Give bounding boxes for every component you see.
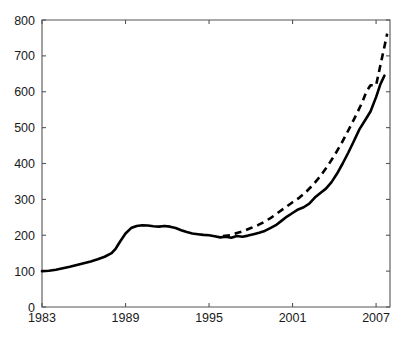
plot-frame xyxy=(42,20,390,307)
x-tick-label: 1989 xyxy=(112,311,140,325)
y-tick-label: 500 xyxy=(14,121,35,135)
x-tick-label: 1995 xyxy=(195,311,223,325)
y-tick-label: 200 xyxy=(14,229,35,243)
x-tick-label: 2007 xyxy=(362,311,390,325)
x-tick-label: 2001 xyxy=(279,311,307,325)
y-tick-label: 700 xyxy=(14,49,35,63)
line-chart: 19831989199520012007 0100200300400500600… xyxy=(0,0,415,338)
y-axis-tick-labels: 0100200300400500600700800 xyxy=(14,14,35,315)
series-line-solid xyxy=(42,76,384,272)
y-tick-label: 400 xyxy=(14,157,35,171)
y-tick-label: 800 xyxy=(14,14,35,28)
x-axis-tick-labels: 19831989199520012007 xyxy=(28,311,390,325)
y-tick-label: 100 xyxy=(14,265,35,279)
y-tick-label: 600 xyxy=(14,85,35,99)
axis-frame xyxy=(42,20,390,307)
y-axis-ticks xyxy=(42,20,390,307)
y-tick-label: 0 xyxy=(28,301,35,315)
x-axis-ticks xyxy=(42,20,376,307)
y-tick-label: 300 xyxy=(14,193,35,207)
chart-figure: 19831989199520012007 0100200300400500600… xyxy=(0,0,415,338)
data-series-group xyxy=(42,34,387,272)
